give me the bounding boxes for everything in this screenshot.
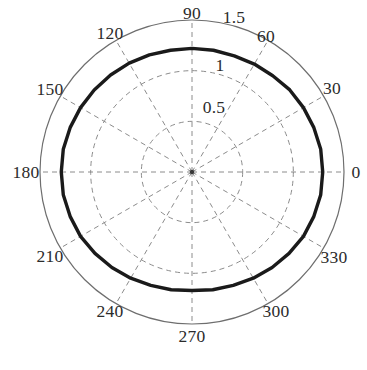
angle-label-90: 90 xyxy=(183,5,201,22)
angle-label-120: 120 xyxy=(97,25,124,42)
polar-spoke-300 xyxy=(192,172,268,304)
angle-label-30: 30 xyxy=(323,80,341,97)
radial-label-1: 1 xyxy=(216,57,225,74)
radial-label-1-5: 1.5 xyxy=(223,9,245,26)
angle-label-270: 270 xyxy=(179,328,206,345)
polar-plot-figure: 0306090120150180210240270300330 0.511.5 … xyxy=(0,0,367,370)
angle-label-210: 210 xyxy=(37,248,64,265)
angle-label-60: 60 xyxy=(257,28,275,45)
angle-label-330: 330 xyxy=(321,249,348,266)
angle-label-150: 150 xyxy=(37,81,64,98)
polar-plot-canvas xyxy=(0,0,367,370)
angle-label-300: 300 xyxy=(263,303,290,320)
angle-label-240: 240 xyxy=(97,303,124,320)
angle-label-0: 0 xyxy=(352,164,361,181)
radial-label-0-5: 0.5 xyxy=(203,99,225,116)
polar-origin-marker xyxy=(190,170,194,174)
polar-spoke-240 xyxy=(116,172,192,304)
polar-spoke-120 xyxy=(116,40,192,172)
angle-label-180: 180 xyxy=(13,164,40,181)
